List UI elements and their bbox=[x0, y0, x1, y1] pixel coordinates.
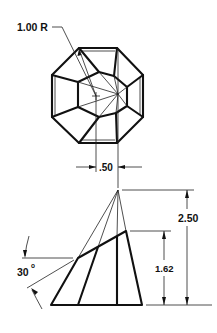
spoke bbox=[52, 107, 78, 117]
angle-label: 30 bbox=[17, 266, 29, 278]
total-height-label: 2.50 bbox=[178, 212, 199, 224]
radius-line bbox=[79, 49, 96, 96]
radius-label: 1.00 R bbox=[17, 21, 48, 33]
spoke bbox=[127, 75, 143, 87]
spoke bbox=[114, 48, 117, 76]
angle-dimension bbox=[22, 236, 74, 309]
frustum-outline bbox=[51, 231, 142, 305]
spoke bbox=[127, 106, 143, 117]
front-view bbox=[51, 190, 142, 305]
spoke bbox=[52, 75, 78, 82]
angle-degree-symbol: o bbox=[31, 262, 35, 269]
cut-height-label: 1.62 bbox=[155, 263, 174, 274]
inner-polygon bbox=[78, 72, 127, 117]
top-view bbox=[52, 27, 143, 188]
outer-octagon bbox=[52, 48, 143, 143]
offset-label: .50 bbox=[99, 162, 113, 173]
spoke bbox=[116, 113, 117, 143]
total-height-dimension bbox=[122, 190, 212, 305]
technical-drawing: 1.00 R .50 30 o 2.50 bbox=[0, 0, 217, 333]
